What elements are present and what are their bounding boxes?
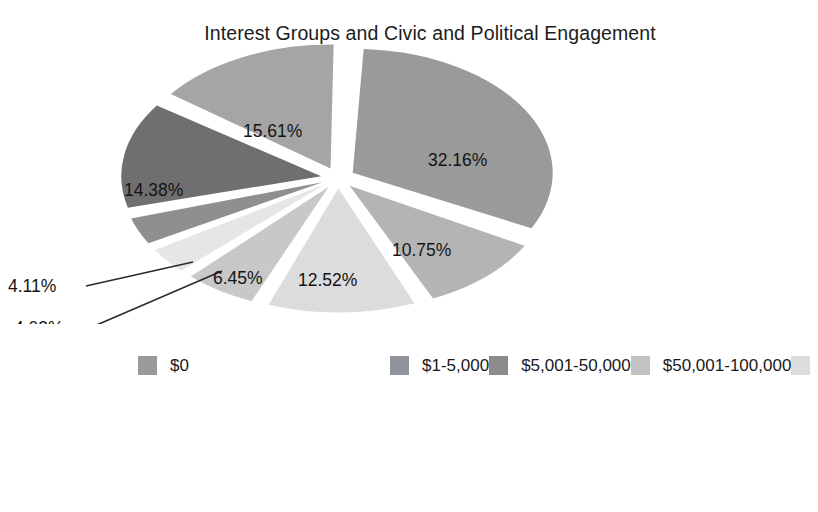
slice-label-4-03: 4.03% (14, 318, 64, 324)
legend-label-0: $0 (170, 357, 189, 374)
slice-label-12-52: 12.52% (298, 270, 357, 290)
leader-line-4-11 (86, 262, 193, 286)
pie-chart-figure: Interest Groups and Civic and Political … (0, 0, 818, 512)
legend-label-3: $50,001-100,000 (663, 357, 792, 374)
legend-label-1: $1-5,000 (422, 357, 489, 374)
slice-label-10-75: 10.75% (392, 240, 451, 260)
slice-label-14-38: 14.38% (124, 180, 183, 200)
legend-label-2: $5,001-50,000 (521, 357, 631, 374)
legend-item-2[interactable]: $5,001-50,000 (489, 348, 631, 383)
legend-swatch-icon-4 (791, 356, 810, 375)
slice-label-15-61: 15.61% (243, 121, 302, 141)
legend-swatch-icon-2 (489, 356, 508, 375)
slice-label-4-11: 4.11% (8, 276, 56, 296)
legend-swatch-icon-0 (138, 356, 157, 375)
leader-line-4-03 (92, 271, 222, 324)
legend-item-1[interactable]: $1-5,000 (390, 348, 489, 383)
legend-swatch-icon-1 (390, 356, 409, 375)
pie-chart-canvas: 32.16% 10.75% 12.52% 6.45% 4.11% 4.03% 1… (0, 44, 818, 324)
slice-label-6-45: 6.45% (213, 268, 263, 288)
legend-item-4[interactable]: $100,001-250,000 (791, 348, 818, 383)
legend-item-3[interactable]: $50,001-100,000 (631, 348, 792, 383)
chart-legend: $0 $1-5,000 $5,001-50,000 $50,001-100,00… (138, 348, 698, 383)
legend-swatch-icon-3 (631, 356, 650, 375)
chart-title: Interest Groups and Civic and Political … (0, 22, 818, 45)
legend-item-0[interactable]: $0 (138, 348, 390, 383)
slice-label-32-16: 32.16% (428, 150, 487, 170)
